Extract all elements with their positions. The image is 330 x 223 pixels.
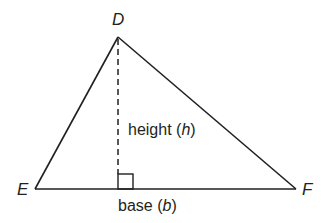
vertex-label-D: D [112, 10, 124, 29]
base-variable: b [162, 197, 171, 214]
right-angle-marker [118, 174, 133, 189]
side-DF [118, 37, 296, 189]
height-label: height (h) [128, 121, 196, 138]
height-label-prefix: height ( [128, 121, 182, 138]
base-label: base (b) [118, 197, 177, 214]
base-label-prefix: base ( [118, 197, 163, 214]
base-label-suffix: ) [171, 197, 176, 214]
height-variable: h [181, 121, 190, 138]
vertex-label-F: F [302, 180, 314, 199]
triangle-area-diagram: D E F height (h) base (b) [0, 0, 330, 223]
vertex-label-E: E [17, 180, 29, 199]
height-label-suffix: ) [190, 121, 195, 138]
side-DE [35, 37, 118, 189]
